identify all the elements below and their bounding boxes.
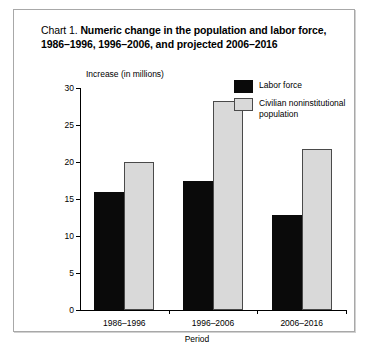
y-axis-caption: Increase (in millions) [86, 69, 164, 79]
x-axis-tick-mark [169, 310, 170, 314]
x-axis-caption: Period [14, 334, 370, 342]
y-axis-tick-mark [76, 88, 80, 89]
y-axis-tick-mark [76, 310, 80, 311]
y-axis-tick-label: 25 [65, 120, 74, 130]
y-axis-tick-mark [76, 273, 80, 274]
x-axis-group-label: 2006–2016 [280, 318, 323, 328]
x-axis-group-label: 1986–1996 [103, 318, 146, 328]
legend-item-civilian: Civilian noninstitutional population [234, 98, 356, 119]
bar-civilian-population [124, 162, 154, 310]
legend-label-civilian: Civilian noninstitutional population [259, 98, 356, 119]
y-axis-tick-mark [76, 125, 80, 126]
y-axis-line [80, 88, 81, 310]
y-axis-tick-label: 20 [65, 157, 74, 167]
y-axis-tick-mark [76, 162, 80, 163]
y-axis-tick-mark [76, 199, 80, 200]
bar-labor-force [272, 215, 302, 310]
x-axis-tick-mark [257, 310, 258, 314]
y-axis-tick-label: 15 [65, 194, 74, 204]
x-axis-caption-label: Period [185, 334, 210, 342]
x-axis-tick-mark [346, 310, 347, 314]
legend-swatch-civilian [234, 98, 253, 111]
bar-labor-force [94, 192, 124, 310]
x-axis-line [80, 310, 346, 311]
bar-civilian-population [302, 149, 332, 310]
legend-label-labor: Labor force [259, 80, 302, 91]
chart-title-body: Numeric change in the population and lab… [41, 24, 326, 50]
chart-figure-frame: Chart 1. Numeric change in the populatio… [13, 9, 355, 332]
y-axis-tick-label: 5 [69, 268, 74, 278]
bar-civilian-population [213, 101, 243, 310]
y-axis-tick-label: 0 [69, 305, 74, 315]
chart-title-prefix: Chart 1. [41, 24, 78, 36]
y-axis-tick-label: 30 [65, 83, 74, 93]
y-axis-tick-label: 10 [65, 231, 74, 241]
legend-item-labor: Labor force [234, 80, 356, 93]
bar-labor-force [183, 181, 213, 311]
x-axis-group-label: 1996–2006 [192, 318, 235, 328]
y-axis-tick-mark [76, 236, 80, 237]
chart-legend: Labor forceCivilian noninstitutional pop… [234, 80, 356, 124]
legend-swatch-labor [234, 80, 253, 93]
chart-title: Chart 1. Numeric change in the populatio… [41, 24, 331, 51]
